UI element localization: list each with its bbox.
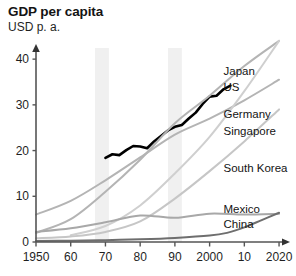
x-tick-label: 60	[64, 250, 78, 264]
shaded-band	[168, 48, 182, 242]
chart-figure: GDP per capita USD p. a. 010203040 19506…	[0, 0, 296, 276]
x-axis-ticks: 1950607080902000102020	[23, 242, 293, 264]
y-tick-label: 0	[22, 235, 29, 249]
series-label-singapore: Singapore	[224, 125, 276, 137]
x-tick-label: 70	[99, 250, 113, 264]
series-label-china: China	[224, 218, 255, 230]
x-tick-label: 2000	[196, 250, 223, 264]
chart-canvas: 010203040 1950607080902000102020 USJapan…	[0, 0, 296, 276]
series-line-germany	[36, 80, 279, 215]
series-line-us	[105, 86, 230, 158]
series-label-south-korea: South Korea	[224, 162, 289, 174]
x-tick-label: 10	[238, 250, 252, 264]
y-tick-label: 10	[16, 189, 30, 203]
x-tick-label: 1950	[23, 250, 50, 264]
shaded-band	[95, 48, 109, 242]
y-axis-ticks: 010203040	[16, 52, 36, 249]
series-label-us: US	[224, 81, 240, 93]
series-label-japan: Japan	[224, 65, 255, 77]
x-tick-label: 90	[168, 250, 182, 264]
series-label-germany: Germany	[224, 108, 272, 120]
y-tick-label: 40	[16, 52, 30, 66]
series-label-mexico: Mexico	[224, 203, 260, 215]
recession-bands	[95, 48, 182, 242]
y-tick-label: 30	[16, 98, 30, 112]
x-tick-label: 2020	[266, 250, 293, 264]
x-axis-arrow-icon	[282, 238, 290, 245]
y-axis-arrow-icon	[32, 44, 40, 52]
x-tick-label: 80	[133, 250, 147, 264]
y-tick-label: 20	[16, 144, 30, 158]
series-labels: USJapanGermanySingaporeSouth KoreaMexico…	[224, 65, 289, 231]
